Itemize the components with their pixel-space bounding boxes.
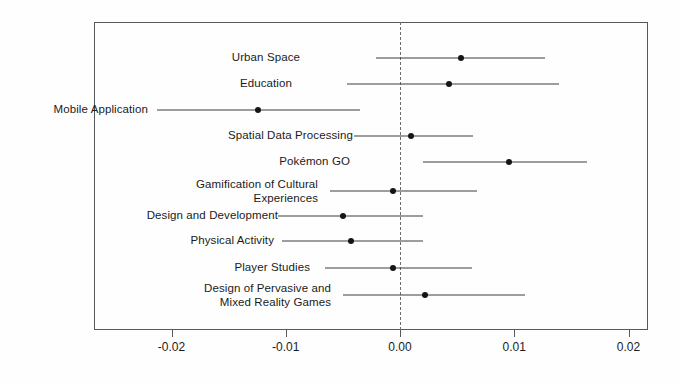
confidence-interval-line (347, 84, 558, 85)
confidence-interval-line (343, 295, 525, 296)
x-axis-tick-label: 0.01 (503, 340, 526, 354)
zero-reference-line (400, 22, 401, 330)
x-axis-tick-label: -0.01 (272, 340, 299, 354)
x-axis-tick-label: 0.02 (617, 340, 640, 354)
row-label: Urban Space (232, 51, 300, 65)
x-axis-tick (514, 330, 515, 337)
row-label: Player Studies (234, 261, 310, 275)
point-estimate-marker (390, 188, 396, 194)
row-label: Design of Pervasive and Mixed Reality Ga… (204, 282, 331, 309)
confidence-interval-line (325, 268, 472, 269)
row-label: Gamification of Cultural Experiences (196, 178, 318, 205)
plot-frame (94, 22, 648, 330)
x-axis-tick-label: 0.00 (388, 340, 411, 354)
point-estimate-marker (340, 213, 346, 219)
row-label: Design and Development (147, 209, 278, 223)
point-estimate-marker (408, 133, 414, 139)
point-estimate-marker (446, 81, 452, 87)
row-label: Mobile Application (54, 103, 149, 117)
point-estimate-marker (458, 55, 464, 61)
row-label: Spatial Data Processing (228, 129, 353, 143)
point-estimate-marker (255, 107, 261, 113)
point-estimate-marker (390, 265, 396, 271)
point-estimate-marker (348, 238, 354, 244)
x-axis-tick (400, 330, 401, 337)
row-label: Pokémon GO (279, 155, 350, 169)
point-estimate-marker (506, 159, 512, 165)
row-label: Education (240, 77, 292, 91)
point-estimate-marker (422, 292, 428, 298)
confidence-interval-line (278, 216, 423, 217)
row-label: Physical Activity (190, 234, 274, 248)
x-axis-tick (629, 330, 630, 337)
x-axis-tick (286, 330, 287, 337)
x-axis-tick (172, 330, 173, 337)
x-axis-tick-label: -0.02 (158, 340, 185, 354)
confidence-interval-line (330, 191, 476, 192)
forest-plot-figure: Urban SpaceEducationMobile ApplicationSp… (0, 0, 680, 384)
